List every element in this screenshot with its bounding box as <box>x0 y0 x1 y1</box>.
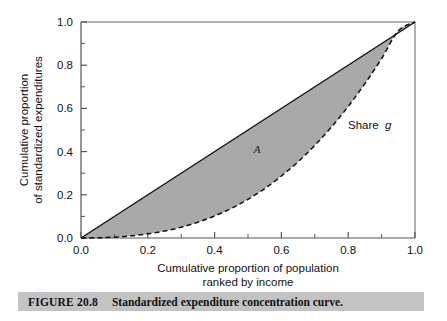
figure-caption-label: FIGURE 20.8 <box>28 296 98 308</box>
x-tick-label: 0.2 <box>140 244 156 256</box>
concentration-curve-chart: 0.00.20.40.60.81.0 0.00.20.40.60.81.0 A … <box>0 0 447 321</box>
x-axis-tick-labels: 0.00.20.40.60.81.0 <box>73 244 423 256</box>
y-tick-label: 0.6 <box>57 102 73 114</box>
x-axis-title-line2: ranked by income <box>203 276 294 288</box>
figure-container: 0.00.20.40.60.81.0 0.00.20.40.60.81.0 A … <box>0 0 447 321</box>
x-tick-label: 0.4 <box>207 244 224 256</box>
figure-caption-bar: FIGURE 20.8 Standardized expenditure con… <box>18 292 424 311</box>
x-tick-label: 0.8 <box>340 244 356 256</box>
share-g-symbol-label: g <box>385 119 392 131</box>
x-axis-title-line1: Cumulative proportion of population <box>157 262 339 274</box>
y-tick-label: 1.0 <box>57 16 73 28</box>
y-axis-title-line1: Cumulative proportion <box>18 74 30 187</box>
y-tick-label: 0.2 <box>57 189 73 201</box>
x-tick-label: 0.0 <box>73 244 89 256</box>
y-tick-label: 0.8 <box>57 59 73 71</box>
y-axis-tick-labels: 0.00.20.40.60.81.0 <box>57 16 74 244</box>
figure-caption-text: Standardized expenditure concentration c… <box>112 296 343 308</box>
y-tick-label: 0.4 <box>57 146 74 158</box>
x-tick-label: 1.0 <box>407 244 423 256</box>
share-g-label: Share <box>348 119 379 131</box>
y-tick-label: 0.0 <box>57 232 73 244</box>
y-axis-title-line2: of standardized expenditures <box>32 56 44 204</box>
area-A-label: A <box>253 143 261 155</box>
x-tick-label: 0.6 <box>273 244 289 256</box>
